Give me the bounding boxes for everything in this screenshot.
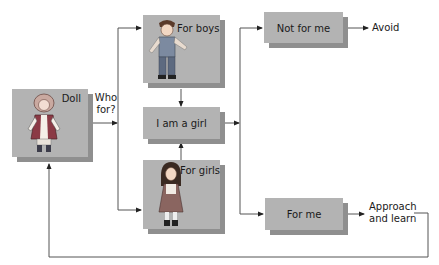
i-am-a-girl-label: I am a girl <box>143 118 220 129</box>
i-am-a-girl-node: I am a girl <box>143 107 220 139</box>
avoid-label: Avoid <box>372 22 399 34</box>
doll-label: Doll <box>62 93 81 105</box>
for-me-label: For me <box>265 209 343 220</box>
for-me-node: For me <box>265 198 343 230</box>
who-for-label: Who for? <box>93 92 119 116</box>
approach-and-learn-label: Approach and learn <box>369 201 417 225</box>
for-boys-node: For boys <box>143 15 220 83</box>
not-for-me-label: Not for me <box>264 22 343 33</box>
approach-line1: Approach <box>369 201 417 213</box>
for-girls-node: For girls <box>143 160 220 229</box>
who-for-line2: for? <box>93 104 119 116</box>
boy-illustration-icon <box>147 17 191 81</box>
approach-line2: and learn <box>369 213 417 225</box>
girl-illustration-icon <box>151 162 191 228</box>
who-for-line1: Who <box>93 92 119 104</box>
doll-node: Doll <box>12 89 88 157</box>
not-for-me-node: Not for me <box>264 12 343 43</box>
doll-illustration-icon <box>24 93 64 155</box>
